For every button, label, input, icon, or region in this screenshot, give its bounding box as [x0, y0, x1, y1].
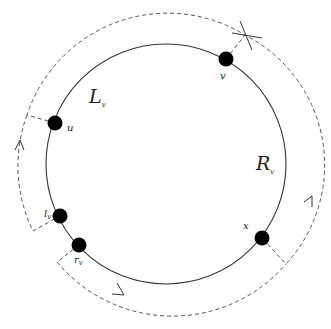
label-node-rv: rv: [74, 254, 83, 267]
dashed-path-top: [27, 13, 325, 264]
cycle-diagram: Lv Rv v u lv rv x: [0, 0, 331, 329]
label-node-v: v: [220, 70, 226, 81]
node-u: [48, 116, 63, 131]
node-lv: [53, 209, 68, 224]
arrow-right-bottom-icon: [112, 283, 124, 295]
label-Lv: Lv: [88, 85, 106, 109]
node-rv: [72, 238, 87, 253]
diagram-canvas: Lv Rv v u lv rv x: [0, 0, 331, 329]
label-Rv: Rv: [255, 152, 274, 176]
node-v: [219, 52, 234, 67]
label-node-lv: lv: [44, 208, 51, 221]
label-node-x: x: [243, 220, 249, 231]
node-x: [255, 231, 270, 246]
arrow-up-right-icon: [304, 196, 312, 207]
label-node-u: u: [67, 122, 73, 133]
dashed-path-bottom: [57, 245, 286, 316]
